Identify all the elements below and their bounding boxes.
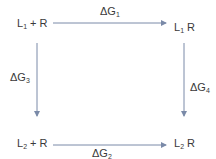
edge-label-bottom: ΔG2	[92, 148, 112, 159]
node-bottom-left: L2 + R	[17, 138, 48, 150]
edge-label-top: ΔG1	[100, 6, 120, 18]
edge-label-left: ΔG3	[10, 72, 30, 84]
node-bottom-right: L2 R	[174, 138, 195, 150]
edge-label-right: ΔG4	[190, 82, 210, 94]
node-top-right: L1 R	[174, 22, 195, 34]
node-top-left: L1 + R	[17, 18, 48, 30]
